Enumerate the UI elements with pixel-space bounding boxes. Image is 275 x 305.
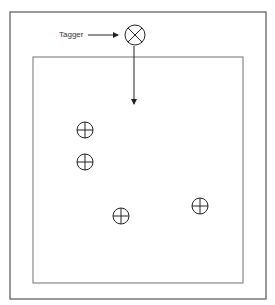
target-icon — [192, 198, 208, 214]
inner-frame — [33, 57, 243, 283]
target-icon — [77, 122, 93, 138]
tagger-icon — [125, 25, 145, 45]
target-icon — [113, 208, 129, 224]
outer-frame — [10, 12, 266, 299]
tagger-diagram — [0, 0, 275, 305]
target-icon — [77, 154, 93, 170]
tagger-label: Tagger — [59, 30, 83, 40]
